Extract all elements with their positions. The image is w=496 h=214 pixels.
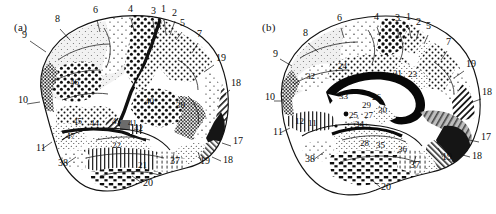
lateral-brain-diagram: 9 8 6 4 3 1 2 5 7 19 18 17 18 19 37 20 3… bbox=[0, 0, 248, 214]
area-label: 19 bbox=[466, 58, 476, 69]
area-label: 17 bbox=[233, 135, 243, 146]
inner-area-label: 12 bbox=[295, 116, 304, 126]
area-label: 20 bbox=[143, 177, 153, 188]
inner-area-label: 36 bbox=[398, 144, 408, 154]
area-label: 4 bbox=[374, 11, 379, 22]
area-label: 19 bbox=[442, 151, 452, 162]
inner-area-label: 28 bbox=[360, 138, 370, 148]
area-label: 37 bbox=[410, 159, 420, 170]
inner-area-label: 45 bbox=[73, 116, 83, 126]
inner-area-label: 31 bbox=[393, 68, 402, 78]
inner-area-label: 21 bbox=[138, 160, 147, 170]
area-label: 2 bbox=[172, 7, 177, 18]
area-label: 38 bbox=[58, 157, 68, 168]
area-label: 17 bbox=[481, 131, 491, 142]
area-label: 1 bbox=[161, 3, 166, 14]
area-label: 11 bbox=[36, 142, 46, 153]
area-label: 8 bbox=[303, 27, 308, 38]
inner-area-label: 29 bbox=[362, 100, 372, 110]
medial-brain-diagram: 9 8 6 4 3 1 2 5 7 19 18 17 18 19 37 20 3… bbox=[248, 0, 496, 214]
area-label: 18 bbox=[231, 77, 241, 88]
inner-area-label: 24 bbox=[338, 61, 348, 71]
inner-area-label: 22 bbox=[112, 140, 121, 150]
inner-area-label: 26 bbox=[372, 92, 382, 102]
area-label: 18 bbox=[223, 154, 233, 165]
area-label: 6 bbox=[93, 4, 98, 15]
area-label: 10 bbox=[265, 91, 275, 102]
panel-caption-a: (a) bbox=[14, 21, 27, 33]
area-label: 2 bbox=[416, 16, 421, 27]
area-label: 18 bbox=[482, 86, 492, 97]
area-label: 8 bbox=[55, 13, 60, 24]
area-label: 4 bbox=[128, 3, 133, 14]
panel-medial-view: 9 8 6 4 3 1 2 5 7 19 18 17 18 19 37 20 3… bbox=[248, 0, 496, 214]
inner-area-label: 40 bbox=[145, 96, 155, 106]
inner-area-label: 43 bbox=[112, 116, 122, 126]
area-label: 19 bbox=[216, 52, 226, 63]
brodmann-figure: 9 8 6 4 3 1 2 5 7 19 18 17 18 19 37 20 3… bbox=[0, 0, 496, 214]
area-label: 3 bbox=[151, 5, 156, 16]
area-label: 11 bbox=[273, 126, 283, 137]
inner-area-label: 35 bbox=[376, 140, 386, 150]
area-label: 37 bbox=[170, 155, 180, 166]
area-label: 19 bbox=[200, 155, 210, 166]
inner-area-label: 30 bbox=[378, 105, 388, 115]
inner-area-label: 34 bbox=[355, 119, 365, 129]
area-label: 18 bbox=[472, 150, 482, 161]
inner-area-label: 23 bbox=[408, 69, 418, 79]
area-label: 3 bbox=[395, 12, 400, 23]
panel-caption-b: (b) bbox=[262, 21, 276, 33]
inner-area-label: 33 bbox=[339, 91, 349, 101]
area-label: 7 bbox=[446, 36, 451, 47]
area-label: 5 bbox=[180, 17, 185, 28]
inner-area-label: 44 bbox=[90, 118, 100, 128]
area-label: 6 bbox=[337, 12, 342, 23]
inner-area-label: 32 bbox=[306, 71, 315, 81]
inner-area-label: 47 bbox=[66, 131, 76, 141]
area-label: 1 bbox=[406, 11, 411, 22]
panel-lateral-view: 9 8 6 4 3 1 2 5 7 19 18 17 18 19 37 20 3… bbox=[0, 0, 248, 214]
inner-area-label: 11 bbox=[308, 118, 317, 128]
area-label: 38 bbox=[305, 153, 315, 164]
area-label: 5 bbox=[426, 20, 431, 31]
area-label: 7 bbox=[197, 28, 202, 39]
medial-cortex-areas bbox=[248, 0, 496, 214]
inner-area-label: 46 bbox=[70, 77, 80, 87]
area-label: 20 bbox=[381, 181, 391, 192]
inner-area-label: 39 bbox=[176, 100, 186, 110]
area-label: 9 bbox=[273, 48, 278, 59]
lateral-cortex-areas bbox=[0, 0, 248, 214]
inner-area-label: 42 bbox=[134, 123, 143, 133]
inner-area-label: 27 bbox=[364, 110, 374, 120]
area-label: 10 bbox=[18, 94, 28, 105]
